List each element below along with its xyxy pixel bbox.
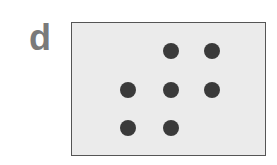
panel-label: d xyxy=(29,20,51,56)
dot-r3-c2 xyxy=(163,120,179,136)
dot-r2-c1 xyxy=(120,82,136,98)
dot-r3-c1 xyxy=(120,120,136,136)
dot-r1-c2 xyxy=(163,43,179,59)
dot-r2-c2 xyxy=(163,82,179,98)
dot-panel xyxy=(71,22,266,156)
dot-r1-c3 xyxy=(204,43,220,59)
dot-r2-c3 xyxy=(204,82,220,98)
